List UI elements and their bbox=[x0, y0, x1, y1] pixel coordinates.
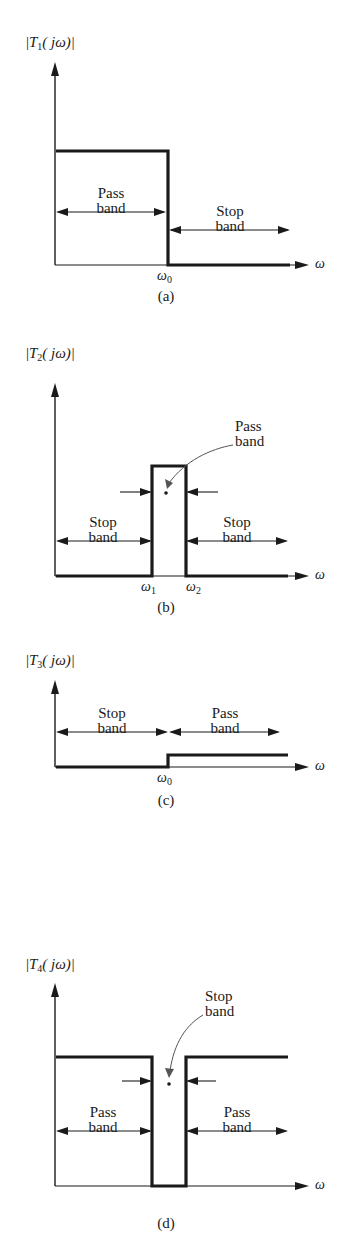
band-label-line1: Stop bbox=[207, 515, 267, 530]
tick-base: ω bbox=[157, 268, 167, 283]
panel-d-pass-band-left-label: Pass band bbox=[73, 1105, 133, 1134]
panel-a-plot bbox=[0, 0, 342, 311]
y-axis bbox=[51, 383, 59, 576]
y-axis bbox=[51, 62, 59, 265]
panel-b-bandpass: |T2( jω)| bbox=[0, 311, 342, 622]
panel-a-x-axis-label: ω bbox=[315, 256, 325, 272]
band-label-line1: Pass bbox=[235, 419, 297, 434]
band-label-line2: band bbox=[207, 530, 267, 545]
stop-band-callout-dot bbox=[167, 1082, 171, 1086]
tick-subscript: 0 bbox=[167, 776, 172, 787]
band-label-line2: band bbox=[73, 530, 133, 545]
tick-base: ω bbox=[141, 579, 151, 594]
panel-d-x-axis-label: ω bbox=[315, 1177, 325, 1193]
x-axis-label-text: ω bbox=[315, 758, 325, 773]
band-label-line2: band bbox=[73, 1120, 133, 1135]
pass-band-arrow-right bbox=[186, 488, 218, 496]
panel-a-lowpass: |T1( jω)| Pass band Stop bbox=[0, 0, 342, 311]
panel-b-caption: (b) bbox=[136, 599, 196, 616]
y-axis bbox=[51, 983, 59, 1186]
band-label-line1: Pass bbox=[73, 1105, 133, 1120]
band-label-line2: band bbox=[207, 1120, 267, 1135]
panel-a-tick-omega0: ω0 bbox=[157, 268, 172, 285]
panel-b-x-axis-label: ω bbox=[315, 567, 325, 583]
panel-c-tick-omega0: ω0 bbox=[157, 770, 172, 787]
panel-b-tick-omega2: ω2 bbox=[186, 579, 201, 596]
panel-d-stop-band-label: Stop band bbox=[205, 989, 267, 1018]
band-label-line1: Pass bbox=[195, 706, 255, 721]
panel-b-pass-band-label: Pass band bbox=[235, 419, 297, 448]
band-label-line2: band bbox=[205, 1004, 267, 1019]
tick-base: ω bbox=[157, 770, 167, 785]
band-label-line1: Stop bbox=[82, 706, 142, 721]
panel-c-x-axis-label: ω bbox=[315, 758, 325, 774]
stop-band-arrow-right bbox=[186, 1077, 216, 1085]
panel-b-tick-omega1: ω1 bbox=[141, 579, 156, 596]
panel-c-caption: (c) bbox=[136, 792, 196, 809]
pass-band-callout-dot bbox=[164, 491, 168, 495]
x-axis-label-text: ω bbox=[315, 1177, 325, 1192]
tick-subscript: 1 bbox=[151, 585, 156, 596]
band-label-line2: band bbox=[81, 201, 141, 216]
panel-b-plot bbox=[0, 311, 342, 622]
panel-c-stop-band-label: Stop band bbox=[82, 706, 142, 735]
response-curve-highpass bbox=[56, 755, 288, 767]
band-label-line2: band bbox=[82, 721, 142, 736]
caption-text: (b) bbox=[157, 599, 175, 615]
band-label-line2: band bbox=[200, 219, 260, 234]
panel-a-pass-band-label: Pass band bbox=[81, 186, 141, 215]
panel-d-caption: (d) bbox=[136, 1215, 196, 1232]
stop-band-arrow-left bbox=[122, 1077, 152, 1085]
panel-c-highpass: |T3( jω)| Stop band Pass band bbox=[0, 622, 342, 933]
band-label-line2: band bbox=[235, 434, 297, 449]
pass-band-arrow-left bbox=[120, 488, 152, 496]
tick-base: ω bbox=[186, 579, 196, 594]
panel-a-stop-band-label: Stop band bbox=[200, 204, 260, 233]
panel-d-bandstop: |T4( jω)| bbox=[0, 933, 342, 1244]
band-label-line1: Pass bbox=[207, 1105, 267, 1120]
band-label-line1: Stop bbox=[73, 515, 133, 530]
panel-b-stop-band-left-label: Stop band bbox=[73, 515, 133, 544]
caption-text: (c) bbox=[158, 792, 175, 808]
panel-d-plot bbox=[0, 933, 342, 1244]
x-axis-label-text: ω bbox=[315, 567, 325, 582]
panel-a-caption: (a) bbox=[136, 288, 196, 305]
caption-text: (a) bbox=[158, 288, 175, 304]
panel-b-stop-band-right-label: Stop band bbox=[207, 515, 267, 544]
panel-d-pass-band-right-label: Pass band bbox=[207, 1105, 267, 1134]
pass-band-callout-leader bbox=[169, 445, 233, 483]
band-label-line1: Stop bbox=[200, 204, 260, 219]
band-label-line1: Pass bbox=[81, 186, 141, 201]
tick-subscript: 2 bbox=[196, 585, 201, 596]
caption-text: (d) bbox=[157, 1215, 175, 1231]
y-axis bbox=[51, 680, 59, 767]
band-label-line1: Stop bbox=[205, 989, 267, 1004]
tick-subscript: 0 bbox=[167, 274, 172, 285]
panel-c-pass-band-label: Pass band bbox=[195, 706, 255, 735]
band-label-line2: band bbox=[195, 721, 255, 736]
x-axis-label-text: ω bbox=[315, 256, 325, 271]
